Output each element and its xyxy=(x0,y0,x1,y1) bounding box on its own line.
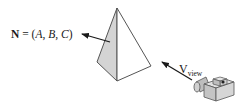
camera-icon xyxy=(194,77,234,101)
normal-vector-label: N = (A, B, C) xyxy=(11,29,72,41)
view-subscript: view xyxy=(188,69,203,78)
view-vector-label: Vview xyxy=(179,63,202,78)
view-symbol: V xyxy=(179,62,188,76)
pyramid-lit-face xyxy=(117,8,151,81)
pyramid xyxy=(97,8,151,81)
diagram-canvas xyxy=(0,0,248,109)
coef-c: C xyxy=(61,28,69,40)
pyramid-shaded-face xyxy=(97,8,117,81)
